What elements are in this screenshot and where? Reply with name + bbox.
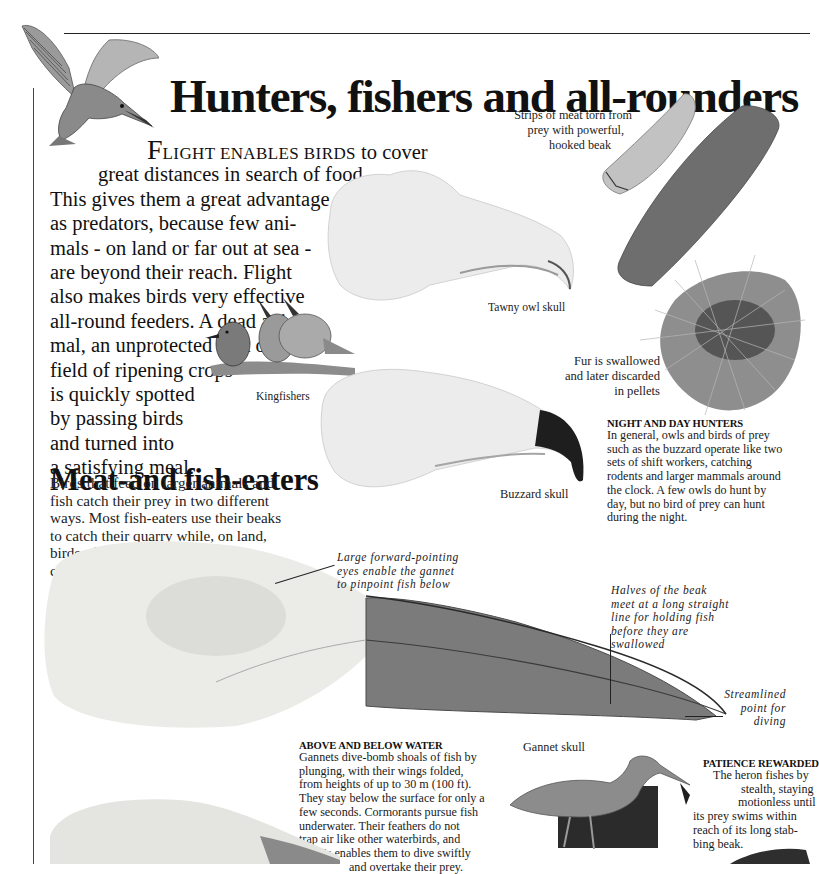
lower-skull-illustration xyxy=(40,796,340,864)
partial-beak-illustration xyxy=(730,846,810,864)
patience-rewarded-box: PATIENCE REWARDED The heron fishes by st… xyxy=(703,758,819,851)
streamlined-leader-line xyxy=(685,716,723,717)
night-day-hunters-box: NIGHT AND DAY HUNTERS In general, owls a… xyxy=(607,418,782,525)
buzzard-skull-illustration xyxy=(315,362,590,497)
left-rule xyxy=(33,88,34,864)
meat-strips-caption: Strips of meat torn from prey with power… xyxy=(512,108,632,153)
fur-pellet-illustration xyxy=(635,250,810,420)
patience-body: The heron fishes by stealth, staying mot… xyxy=(703,769,815,851)
top-rule xyxy=(64,33,810,34)
kingfishers-caption: Kingfishers xyxy=(256,390,310,402)
gannet-caption: Gannet skull xyxy=(523,740,585,755)
streamlined-caption: Streamlined point for diving xyxy=(720,688,786,729)
drop-cap: F xyxy=(147,134,163,165)
beak-halves-caption: Halves of the beak meet at a long straig… xyxy=(611,584,729,652)
tawny-owl-caption: Tawny owl skull xyxy=(488,301,565,314)
eyes-caption: Large forward-pointing eyes enable the g… xyxy=(337,551,459,592)
kingfisher-flying-illustration xyxy=(14,18,159,148)
heron-illustration xyxy=(510,755,700,855)
tawny-owl-skull-illustration xyxy=(320,165,580,310)
buzzard-caption: Buzzard skull xyxy=(500,487,568,502)
night-day-body: In general, owls and birds of prey such … xyxy=(607,429,782,525)
